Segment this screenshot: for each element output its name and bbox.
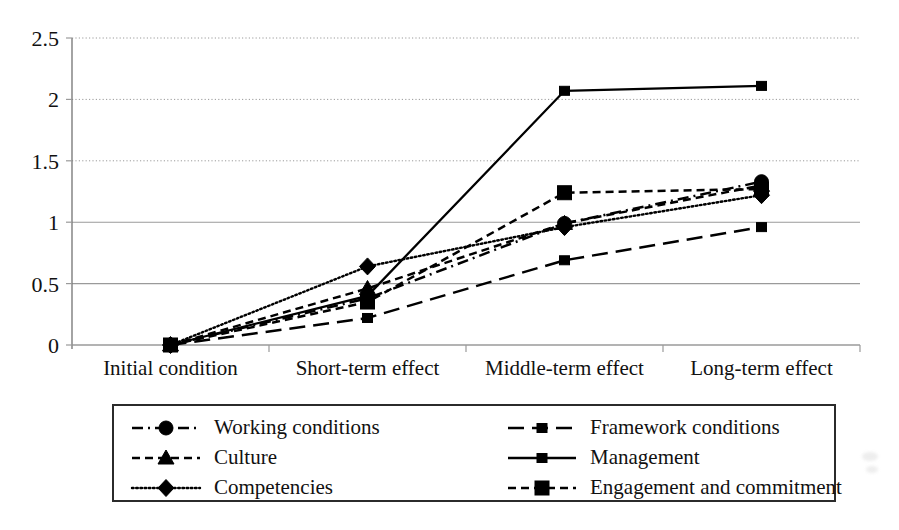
series-line [171,227,762,345]
chart-page: 00.511.522.5 Initial conditionShort-term… [0,0,899,530]
series-point-marker [757,81,767,90]
x-axis-category-label: Initial condition [103,356,238,380]
legend-label: Engagement and commitment [590,475,842,499]
y-axis-tick-label: 0.5 [32,272,60,297]
chart-legend: Working conditionsFramework conditionsCu… [113,405,842,501]
gridlines [72,38,860,345]
legend-label: Culture [214,445,277,469]
x-axis-category-label: Long-term effect [690,356,833,380]
series-point-marker [755,182,769,196]
legend-marker-sample [537,424,547,433]
series-line [171,189,762,345]
x-axis-category-labels: Initial conditionShort-term effectMiddle… [103,356,833,380]
series-point-marker [558,186,572,200]
series-point-marker [560,86,570,95]
legend-label: Management [590,445,700,469]
chart-canvas: 00.511.522.5 Initial conditionShort-term… [0,0,899,530]
series-point-marker [560,256,570,265]
series-point-marker [363,313,373,322]
y-axis-tick-label: 1 [48,210,59,235]
series-line [171,86,762,345]
legend-marker-sample [537,454,547,463]
data-series-lines [171,86,762,345]
line-chart-figure: 00.511.522.5 Initial conditionShort-term… [0,0,899,530]
y-axis-tick-label: 2 [48,87,59,112]
x-axis-category-label: Short-term effect [296,356,440,380]
legend-marker-sample [535,481,549,495]
legend-marker-sample [159,421,173,435]
series-point-marker [757,223,767,232]
y-axis-tick-labels: 00.511.522.5 [32,26,73,358]
scan-artifact-2 [866,466,878,473]
y-axis-tick-label: 2.5 [32,26,60,51]
legend-label: Competencies [214,475,333,499]
legend-label: Working conditions [214,415,380,439]
series-point-marker [361,295,375,309]
y-axis-tick-label: 1.5 [32,149,60,174]
scan-artifact [862,452,878,461]
series-point-marker [360,258,376,275]
x-axis-category-label: Middle-term effect [485,356,644,380]
series-point-marker [164,338,178,352]
y-axis-tick-label: 0 [48,333,59,358]
legend-label: Framework conditions [590,415,780,439]
